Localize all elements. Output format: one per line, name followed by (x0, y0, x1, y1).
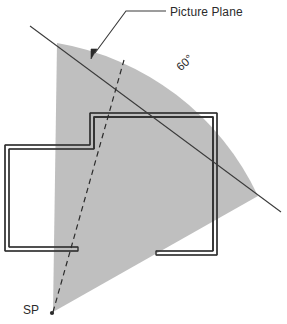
station-point-dot (50, 311, 54, 315)
station-point-label: SP (23, 303, 39, 317)
cone-of-vision-shape (53, 43, 258, 312)
picture-plane-leader-group (91, 11, 166, 59)
diagram-canvas: Picture Plane 60° SP (0, 0, 287, 324)
left-wing-left-wall (5, 145, 9, 251)
picture-plane-label: Picture Plane (170, 5, 243, 19)
diagram-svg (0, 0, 287, 324)
picture-plane-leader-line (95, 11, 166, 53)
bottom-right-wall (156, 251, 217, 255)
cone-of-vision-group (53, 43, 258, 312)
